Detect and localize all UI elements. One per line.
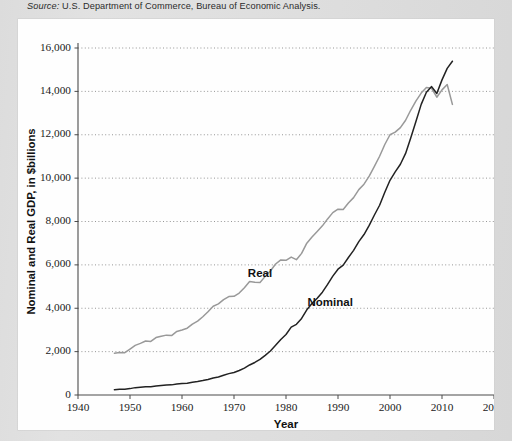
x-tick-label: 1990 [327, 401, 350, 413]
series-lines [114, 61, 452, 389]
y-tick-label: 2,000 [46, 344, 72, 356]
y-tick-label: 16,000 [40, 41, 71, 53]
series-line-real [114, 84, 452, 353]
y-tick-labels: 02,0004,0006,0008,00010,00012,00014,0001… [40, 41, 71, 400]
x-tick-label: 1970 [223, 401, 246, 413]
y-axis-title: Nominal and Real GDP, in $billions [25, 128, 37, 314]
y-tick-label: 6,000 [46, 257, 72, 269]
x-tick-labels: 194019501960197019801990200020102020 [67, 401, 494, 413]
y-tick-label: 4,000 [46, 301, 72, 313]
series-annotations: RealNominal [248, 267, 353, 308]
gridlines [78, 48, 494, 352]
x-tick-label: 1950 [119, 401, 142, 413]
x-tick-label: 1960 [171, 401, 194, 413]
gdp-line-chart: 02,0004,0006,0008,00010,00012,00014,0001… [18, 19, 494, 430]
y-tick-label: 0 [65, 388, 71, 400]
series-line-nominal [114, 61, 452, 389]
series-label-real: Real [248, 267, 272, 279]
x-tick-label: 2010 [431, 401, 454, 413]
y-tick-label: 14,000 [40, 84, 71, 96]
y-tick-label: 10,000 [40, 171, 71, 183]
x-tick-label: 2020 [483, 401, 494, 413]
y-tick-label: 12,000 [40, 127, 71, 139]
source-keyword: Source: [27, 1, 59, 11]
x-tick-label: 1980 [275, 401, 298, 413]
x-tick-label: 1940 [67, 401, 90, 413]
source-text: U.S. Department of Commerce, Bureau of E… [59, 1, 320, 11]
figure-panel: 02,0004,0006,0008,00010,00012,00014,0001… [18, 19, 494, 430]
x-tick-label: 2000 [379, 401, 402, 413]
x-tick-marks [78, 395, 494, 399]
x-axis-title: Year [274, 418, 299, 430]
plot-area: 02,0004,0006,0008,00010,00012,00014,0001… [18, 19, 494, 430]
source-citation: Source: U.S. Department of Commerce, Bur… [27, 1, 487, 11]
y-tick-label: 8,000 [46, 214, 72, 226]
series-label-nominal: Nominal [308, 296, 353, 308]
